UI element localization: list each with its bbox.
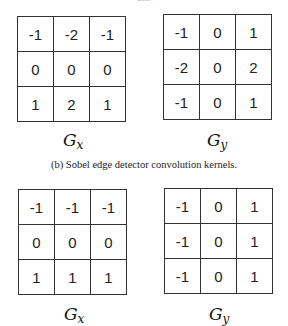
cell: 0 [90, 52, 126, 87]
cell: 2 [236, 50, 272, 85]
cell: 0 [201, 189, 237, 224]
cell: -1 [55, 190, 91, 225]
cell: 1 [55, 260, 91, 295]
previous-caption-fragment: ues. [0, 0, 288, 3]
cell: 0 [54, 52, 90, 87]
cell: -1 [90, 17, 126, 52]
cell: 0 [200, 50, 236, 85]
cell: 1 [237, 189, 273, 224]
sobel-gx-label: Gx [63, 130, 83, 152]
cell: -1 [91, 190, 127, 225]
cell: 1 [237, 259, 273, 294]
cell: 0 [200, 85, 236, 120]
cell: -1 [165, 224, 201, 259]
cell: 1 [91, 260, 127, 295]
figure-caption-b: (b) Sobel edge detector convolution kern… [0, 159, 288, 170]
cell: -2 [164, 50, 200, 85]
cell: -1 [164, 15, 200, 50]
prewitt-gx-kernel: -1-1-1 000 111 [18, 189, 127, 295]
cell: -1 [165, 259, 201, 294]
cell: 1 [236, 15, 272, 50]
cell: -1 [165, 189, 201, 224]
cell: 1 [237, 224, 273, 259]
cell: 1 [18, 87, 54, 122]
cell: 0 [55, 225, 91, 260]
prewitt-gx-label: Gx [64, 304, 84, 326]
cell: 0 [201, 259, 237, 294]
cell: 1 [19, 260, 55, 295]
cell: -2 [54, 17, 90, 52]
prewitt-gy-kernel: -101 -101 -101 [164, 188, 273, 294]
prewitt-gy-label: Gy [209, 304, 229, 326]
cell: 2 [54, 87, 90, 122]
sobel-gx-kernel: -1-2-1 000 121 [17, 16, 126, 122]
cell: 0 [18, 52, 54, 87]
cell: 0 [200, 15, 236, 50]
cell: 0 [201, 224, 237, 259]
sobel-gy-label: Gy [207, 130, 227, 152]
cell: -1 [18, 17, 54, 52]
cell: -1 [164, 85, 200, 120]
cell: -1 [19, 190, 55, 225]
cell: 0 [19, 225, 55, 260]
sobel-gy-kernel: -101 -202 -101 [163, 14, 272, 120]
cell: 1 [236, 85, 272, 120]
cell: 0 [91, 225, 127, 260]
cell: 1 [90, 87, 126, 122]
